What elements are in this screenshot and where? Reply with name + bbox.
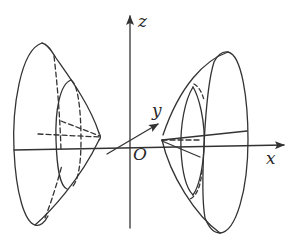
left-inner-ellipse-back — [71, 80, 81, 186]
right-lower-edge — [162, 140, 220, 233]
origin-label: O — [133, 144, 147, 164]
x-axis — [14, 145, 284, 150]
left-upper-edge — [42, 43, 99, 133]
axes — [14, 16, 284, 228]
left-lower-edge — [35, 140, 99, 225]
left-hidden-edge-upper — [54, 56, 61, 150]
right-upper-edge — [163, 52, 228, 135]
right-outer-ellipse — [203, 52, 248, 233]
hyperboloid-diagram: z y x O — [0, 0, 302, 247]
right-inner-ellipse-left — [181, 87, 193, 195]
right-sheet — [162, 52, 248, 233]
y-axis-label: y — [151, 100, 162, 120]
z-axis-label: z — [137, 11, 148, 31]
x-axis-label: x — [266, 148, 276, 168]
left-sheet — [14, 43, 101, 225]
left-dashed-radial-2 — [38, 134, 100, 137]
